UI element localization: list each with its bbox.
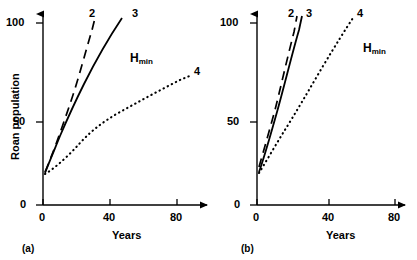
curve-label-3-b: 3 (306, 8, 312, 19)
curve-label-3-a: 3 (132, 8, 138, 19)
curve-2-panel-a (45, 18, 95, 172)
x-tick-label-40-a: 40 (103, 212, 115, 223)
hmin-annotation-b: Hmin (363, 42, 386, 54)
y-tick-label-50-a: 50 (13, 116, 25, 127)
curve-label-2-a: 2 (89, 8, 95, 19)
chart-panel-a: Roan population 0 50 100 0 40 80 Years 2… (0, 0, 208, 260)
curve-3-panel-b (259, 16, 302, 172)
y-tick-label-50-b: 50 (227, 116, 239, 127)
x-tick-label-0-a: 0 (39, 212, 45, 223)
x-tick-label-80-b: 80 (388, 212, 400, 223)
panel-caption-b: (b) (241, 244, 254, 254)
y-tick-label-0-a: 0 (20, 199, 26, 210)
hmin-base-a: H (130, 51, 139, 65)
y-tick-label-100-a: 100 (6, 17, 24, 28)
y-tick-label-100-b: 100 (220, 17, 238, 28)
curve-label-4-b: 4 (357, 8, 363, 19)
x-axis-title-a: Years (112, 230, 141, 241)
curve-2-panel-b (259, 16, 297, 167)
x-tick-label-80-a: 80 (170, 212, 182, 223)
panel-caption-a: (a) (22, 244, 34, 254)
curve-3-panel-a (45, 18, 122, 173)
y-tick-label-0-b: 0 (234, 199, 240, 210)
x-axis-title-b: Years (326, 230, 355, 241)
curve-label-2-b: 2 (288, 8, 294, 19)
hmin-base-b: H (363, 41, 372, 55)
curve-label-4-a: 4 (194, 66, 200, 77)
figure-container: Roan population 0 50 100 0 40 80 Years 2… (0, 0, 417, 260)
curve-4-panel-a (45, 75, 192, 174)
panel-b-plot (209, 0, 417, 260)
x-tick-label-40-b: 40 (322, 212, 334, 223)
x-tick-label-0-b: 0 (253, 212, 259, 223)
hmin-subscript-a: min (139, 57, 153, 66)
hmin-subscript-b: min (372, 47, 386, 56)
chart-panel-b: 0 50 100 0 40 80 Years 2 3 4 Hmin (b) (209, 0, 417, 260)
hmin-annotation-a: Hmin (130, 52, 153, 64)
curve-4-panel-b (259, 18, 353, 173)
